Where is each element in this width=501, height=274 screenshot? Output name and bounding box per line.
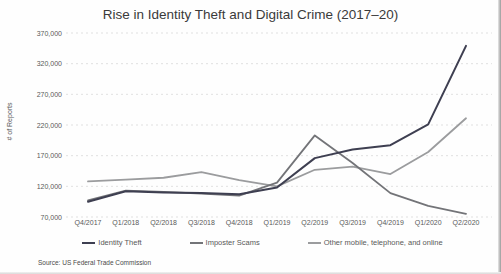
x-tick-label: Q4/2019 (371, 219, 409, 227)
y-tick-label: 120,000 (28, 183, 62, 190)
y-tick-label: 370,000 (28, 30, 62, 37)
x-tick-label: Q1/2018 (107, 219, 145, 227)
legend-label: Identity Theft (98, 238, 141, 247)
x-tick-label: Q1/2019 (258, 219, 296, 227)
legend-line-marker-icon (308, 242, 321, 244)
legend-item: Other mobile, telephone, and online (308, 238, 443, 247)
y-tick-label: 170,000 (28, 152, 62, 159)
legend-item: Identity Theft (82, 238, 141, 247)
source-note: Source: US Federal Trade Commission (38, 259, 151, 266)
legend-label: Imposter Scams (206, 238, 260, 247)
y-tick-label: 270,000 (28, 91, 62, 98)
legend-line-marker-icon (82, 242, 95, 244)
chart-canvas: Rise in Identity Theft and Digital Crime… (0, 0, 501, 274)
x-tick-label: Q4/2018 (220, 219, 258, 227)
x-tick-label: Q2/2020 (447, 219, 485, 227)
legend-label: Other mobile, telephone, and online (324, 238, 443, 247)
series-line-other-mobile-telephone-and-online (88, 118, 466, 186)
x-tick-label: Q4/2017 (69, 219, 107, 227)
y-tick-label: 70,000 (28, 214, 62, 221)
legend-item: Imposter Scams (190, 238, 260, 247)
x-tick-label: Q2/2018 (145, 219, 183, 227)
series-line-imposter-scams (88, 135, 466, 214)
line-chart (0, 0, 501, 274)
legend-line-marker-icon (190, 242, 203, 244)
x-tick-label: Q2/2019 (296, 219, 334, 227)
x-tick-label: Q1/2020 (409, 219, 447, 227)
y-tick-label: 220,000 (28, 122, 62, 129)
y-tick-label: 320,000 (28, 60, 62, 67)
x-tick-label: Q3/2019 (334, 219, 372, 227)
x-tick-label: Q3/2018 (182, 219, 220, 227)
chart-legend: Identity TheftImposter ScamsOther mobile… (0, 238, 501, 247)
